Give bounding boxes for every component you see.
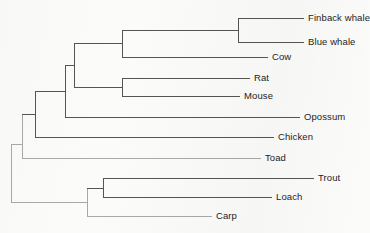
leaf-label-mouse: Mouse xyxy=(244,91,273,101)
leaf-label-cow: Cow xyxy=(272,52,291,62)
leaf-label-carp: Carp xyxy=(216,211,237,221)
leaf-label-trout: Trout xyxy=(318,173,340,183)
leaf-label-loach: Loach xyxy=(276,192,302,202)
leaf-label-finback-whale: Finback whale xyxy=(308,13,370,23)
horizontal-branch-layer xyxy=(11,19,314,217)
leaf-label-opossum: Opossum xyxy=(304,112,345,122)
leaf-label-rat: Rat xyxy=(254,73,269,83)
leaf-label-blue-whale: Blue whale xyxy=(308,37,355,47)
leaf-label-toad: Toad xyxy=(265,153,286,163)
leaf-label-chicken: Chicken xyxy=(278,132,313,142)
